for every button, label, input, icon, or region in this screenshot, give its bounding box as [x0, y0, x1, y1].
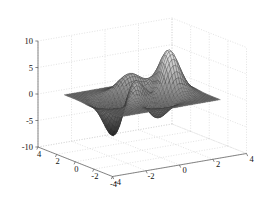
y-tick-mark: [180, 165, 181, 168]
right-wall-grid-z: [38, 18, 172, 41]
z-tick-label: 10: [25, 36, 34, 46]
right-wall-grid-z: [38, 45, 172, 68]
z-tick-label: 0: [29, 89, 33, 99]
x-tick-label: 0: [74, 164, 78, 174]
surface-plot: 1050-5-10420-2-4-4-2024: [0, 0, 269, 209]
back-wall-grid-z: [172, 18, 247, 48]
y-tick-label: -4: [114, 177, 122, 187]
x-tick-label: 4: [37, 149, 42, 159]
x-tick-label: 2: [56, 156, 60, 166]
y-tick-label: 2: [216, 159, 220, 169]
floor-grid-line-x: [94, 146, 228, 169]
x-tick-label: -2: [91, 171, 98, 181]
y-tick-mark: [247, 154, 248, 157]
z-tick-label: -10: [22, 142, 33, 152]
y-tick-label: 4: [249, 154, 254, 164]
z-tick-label: -5: [26, 116, 33, 126]
floor-grid-line-x: [75, 139, 209, 162]
back-wall-grid-z: [172, 45, 247, 75]
y-tick-mark: [213, 159, 214, 162]
z-tick-label: 5: [29, 63, 33, 73]
y-tick-label: -2: [147, 171, 154, 181]
figure-canvas: 1050-5-10420-2-4-4-2024: [0, 0, 269, 209]
surface-mesh: [64, 50, 220, 136]
y-tick-label: 0: [182, 165, 186, 175]
